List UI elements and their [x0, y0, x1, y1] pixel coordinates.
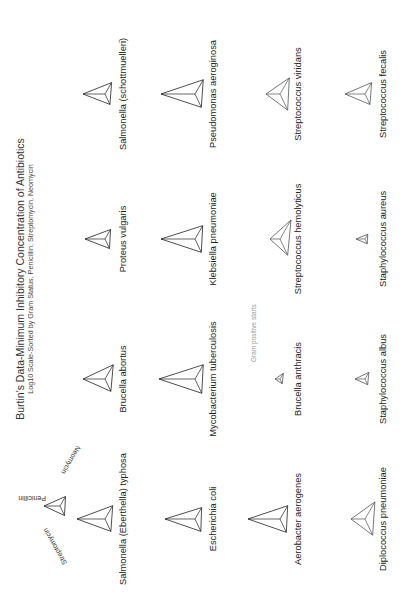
- triangle-glyph-icon: [161, 80, 203, 108]
- rotated-chart-canvas: Burtin's Data-Minimum Inhibitory Concent…: [0, 0, 412, 594]
- bacteria-label: Diplococcus pneumoniae: [378, 444, 389, 594]
- bacteria-label: Klebsiella pneumoniae: [208, 164, 219, 314]
- legend-label-penicillin: Penicillin: [18, 495, 46, 502]
- triangle-glyph-icon: [345, 83, 372, 105]
- triangle-glyph-icon: [83, 365, 113, 392]
- bacteria-label: Salmonella (Eberthella) typhosa: [118, 444, 129, 594]
- triangle-glyph-icon: [77, 506, 113, 532]
- bacteria-label: Streptococcus viridans: [293, 19, 304, 169]
- bacteria-label: Mycobacterium tuberculosis: [208, 304, 219, 454]
- triangle-glyph-icon: [165, 508, 202, 532]
- bacteria-label: Pseudomonas aeroginosa: [208, 19, 219, 169]
- triangle-glyph-icon: [161, 226, 203, 253]
- legend-glyph-icon: [44, 497, 66, 516]
- triangle-glyph-icon: [356, 234, 368, 244]
- triangle-glyph-icon: [351, 502, 375, 535]
- triangle-glyph-icon: [270, 220, 291, 255]
- bacteria-label: Brucella anthracis: [293, 304, 304, 454]
- bacteria-label: Proteus vulgaris: [118, 164, 129, 314]
- triangle-glyph-icon: [266, 78, 289, 110]
- triangle-glyph-icon: [159, 365, 203, 394]
- bacteria-label: Streptococcus fecalis: [378, 19, 389, 169]
- triangle-glyph-icon: [85, 230, 111, 249]
- bacteria-label: Salmonella (schottmuelleri): [118, 19, 129, 169]
- glyph-layer: [0, 0, 412, 594]
- triangle-glyph-icon: [355, 372, 369, 384]
- bacteria-label: Staphylococcus albus: [378, 304, 389, 454]
- gram-positive-note: Gram positive starts: [250, 304, 257, 362]
- bacteria-label: Brucella abortus: [118, 304, 129, 454]
- triangle-glyph-icon: [248, 506, 288, 533]
- triangle-glyph-icon: [83, 83, 112, 105]
- triangle-glyph-icon: [275, 373, 283, 383]
- bacteria-label: Streptococcus hemolyticus: [293, 164, 304, 314]
- bacteria-label: Escherichia coli: [208, 444, 219, 594]
- bacteria-label: Aerobacter aerogenes: [293, 444, 304, 594]
- bacteria-label: Staphylococcus aureus: [378, 164, 389, 314]
